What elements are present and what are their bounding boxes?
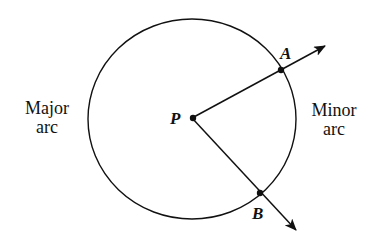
point-a	[278, 67, 284, 73]
major-arc-label: Major arc	[16, 99, 78, 137]
label-p: P	[170, 109, 180, 128]
ray-pb	[192, 118, 296, 230]
point-b	[257, 190, 263, 196]
major-arc-line2: arc	[16, 118, 78, 137]
label-b: B	[252, 204, 263, 223]
minor-arc-line2: arc	[303, 120, 365, 139]
major-arc-line1: Major	[16, 99, 78, 118]
label-a: A	[280, 44, 291, 63]
arc-diagram: P A B Major arc Minor arc	[0, 0, 380, 244]
minor-arc-line1: Minor	[303, 101, 365, 120]
minor-arc-label: Minor arc	[303, 101, 365, 139]
point-p	[190, 115, 196, 121]
